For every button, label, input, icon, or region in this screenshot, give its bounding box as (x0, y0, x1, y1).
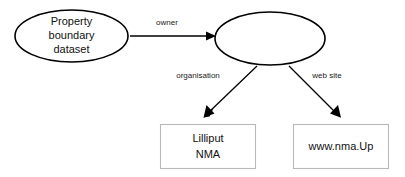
edge-owner: owner (130, 18, 216, 40)
node-lilliput-nma[interactable]: Lilliput NMA (161, 125, 256, 169)
lilliput-nma-line-1: Lilliput (192, 132, 223, 144)
lilliput-nma-line-2: NMA (196, 148, 221, 160)
edge-owner-label: owner (156, 18, 178, 27)
web-site-value-line-1: www.nma.Up (308, 140, 374, 152)
node-web-site-value[interactable]: www.nma.Up (294, 125, 389, 169)
edge-web-site-label: web site (311, 71, 342, 80)
edge-organisation: organisation (176, 66, 257, 118)
diagram-canvas: owner organisation web site Property bou… (0, 0, 405, 177)
node-property-boundary-dataset[interactable]: Property boundary dataset (15, 10, 128, 62)
node-owner-entity[interactable] (215, 12, 325, 65)
property-boundary-dataset-line-3: dataset (53, 43, 89, 55)
property-boundary-dataset-line-1: Property (51, 15, 93, 27)
property-boundary-dataset-line-2: boundary (49, 29, 95, 41)
owner-entity-ellipse[interactable] (215, 12, 325, 65)
edge-web-site: web site (289, 66, 342, 118)
edge-organisation-label: organisation (176, 71, 220, 80)
edge-web-site-arrowhead (330, 105, 341, 118)
